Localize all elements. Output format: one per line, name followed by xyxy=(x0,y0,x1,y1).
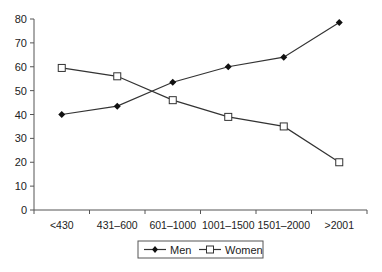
y-tick-label: 30 xyxy=(15,132,27,144)
y-tick-label: 10 xyxy=(15,180,27,192)
x-axis: <430431–600601–10001001–15001501–2000>20… xyxy=(34,210,367,231)
y-tick-label: 70 xyxy=(15,37,27,49)
x-tick-label: <430 xyxy=(50,219,74,231)
legend-men-label: Men xyxy=(170,244,191,256)
line-chart: 01020304050607080 <430431–600601–1000100… xyxy=(0,0,382,272)
x-tick-label: 1001–1500 xyxy=(202,219,255,231)
y-tick-label: 40 xyxy=(15,109,27,121)
y-tick-label: 60 xyxy=(15,61,27,73)
x-tick-label: >2001 xyxy=(325,219,355,231)
series-line-women xyxy=(62,68,340,162)
y-tick-label: 0 xyxy=(21,204,27,216)
data-point-women xyxy=(225,113,232,120)
y-tick-label: 20 xyxy=(15,156,27,168)
data-point-men xyxy=(169,79,176,86)
data-point-men xyxy=(336,19,343,26)
data-point-men xyxy=(114,103,121,110)
legend: Men Women xyxy=(138,241,263,258)
data-point-women xyxy=(114,73,121,80)
series-line-men xyxy=(62,23,340,115)
women-marker-icon xyxy=(207,246,214,253)
y-tick-label: 80 xyxy=(15,13,27,25)
data-point-men xyxy=(280,54,287,61)
data-point-women xyxy=(336,159,343,166)
data-point-men xyxy=(58,111,65,118)
series-lines xyxy=(58,19,343,166)
data-point-women xyxy=(280,123,287,130)
x-tick-label: 431–600 xyxy=(97,219,138,231)
x-tick-label: 1501–2000 xyxy=(257,219,310,231)
y-tick-label: 50 xyxy=(15,85,27,97)
data-point-women xyxy=(58,64,65,71)
y-axis: 01020304050607080 xyxy=(15,13,34,216)
legend-women-label: Women xyxy=(225,244,263,256)
data-point-women xyxy=(169,97,176,104)
data-point-men xyxy=(225,63,232,70)
x-tick-label: 601–1000 xyxy=(149,219,196,231)
